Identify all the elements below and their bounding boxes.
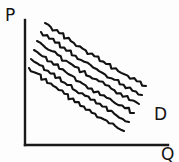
demand-curves-group: [29, 23, 146, 131]
hand-drawn-supply-demand-diagram: [0, 0, 179, 162]
sketch-figure-canvas: P D Q: [0, 0, 179, 162]
y-axis-label-price: P: [5, 7, 15, 24]
demand-curve-family-label: D: [154, 106, 167, 123]
x-axis-label-quantity: Q: [161, 146, 174, 162]
